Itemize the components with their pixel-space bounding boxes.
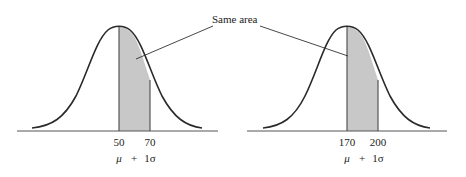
left-mean-tick-label: 50 — [114, 136, 126, 148]
right-mu-symbol: μ — [343, 152, 350, 164]
right-sigma-term: 1σ — [372, 152, 384, 164]
same-area-label: Same area — [212, 13, 258, 25]
left-sd-tick-label: 70 — [145, 136, 157, 148]
left-sigma-term: 1σ — [144, 152, 156, 164]
left-plus-symbol: + — [131, 152, 137, 164]
left-shaded-area — [119, 27, 150, 131]
right-mean-tick-label: 170 — [339, 136, 356, 148]
callout-leader-left — [136, 26, 213, 59]
left-mu-symbol: μ — [115, 152, 122, 164]
right-shaded-area — [347, 27, 378, 131]
right-plus-symbol: + — [359, 152, 365, 164]
same-area-callout: Same area — [136, 13, 348, 59]
right-sd-tick-label: 200 — [370, 136, 387, 148]
right-panel: 170 200 μ + 1σ — [247, 26, 447, 164]
left-panel: 50 70 μ + 1σ — [17, 26, 218, 164]
normal-distribution-figure: 50 70 μ + 1σ 170 200 μ + 1σ Same area — [0, 0, 466, 177]
